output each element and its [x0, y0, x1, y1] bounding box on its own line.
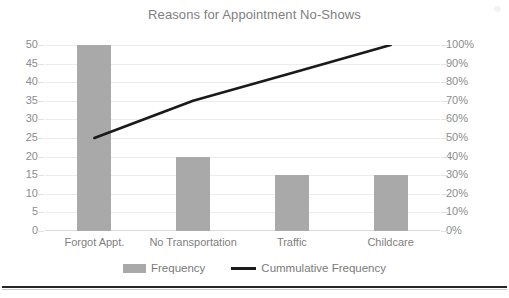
left-axis-tick-label: 15: [6, 169, 38, 180]
chart-title: Reasons for Appointment No-Shows: [0, 7, 509, 22]
left-axis-tick-label: 40: [6, 76, 38, 87]
right-axis-tick-label: 30%: [446, 169, 492, 180]
left-axis-tick-label: 25: [6, 132, 38, 143]
category-label: Traffic: [243, 236, 342, 249]
right-axis-tick-mark: [441, 64, 448, 65]
page-bottom-rule-shadow: [2, 289, 507, 290]
right-axis-tick-label: 50%: [446, 132, 492, 143]
scan-artifact: [494, 6, 501, 12]
bar-traffic[interactable]: [275, 175, 309, 231]
right-axis-tick-mark: [441, 175, 448, 176]
left-axis-tick-label: 30: [6, 113, 38, 124]
legend-bar-swatch-icon: [123, 264, 146, 273]
right-axis-tick-mark: [441, 194, 448, 195]
left-axis-tick-label: 35: [6, 95, 38, 106]
right-axis-tick-label: 40%: [446, 151, 492, 162]
left-axis-tick-mark: [37, 175, 44, 176]
legend-item-cumulative-frequency[interactable]: Cummulative Frequency: [231, 262, 386, 274]
left-axis-tick-mark: [37, 101, 44, 102]
left-axis-tick-mark: [37, 119, 44, 120]
left-axis-tick-label: 0: [6, 225, 38, 236]
right-axis-tick-mark: [441, 101, 448, 102]
category-label: Forgot Appt.: [45, 236, 144, 249]
bar-no-transportation[interactable]: [176, 157, 210, 231]
right-axis-tick-label: 20%: [446, 188, 492, 199]
left-axis-tick-label: 20: [6, 151, 38, 162]
left-axis-tick-mark: [37, 212, 44, 213]
bar-forgot-appt[interactable]: [77, 45, 111, 231]
pareto-chart: Reasons for Appointment No-Shows 5045403…: [0, 0, 509, 298]
left-axis-tick-label: 10: [6, 188, 38, 199]
category-label: Childcare: [341, 236, 440, 249]
left-axis-tick-mark: [37, 45, 44, 46]
right-axis-tick-mark: [441, 138, 448, 139]
right-axis-tick-mark: [441, 231, 448, 232]
legend-line-swatch-icon: [231, 267, 256, 270]
right-axis-tick-mark: [441, 119, 448, 120]
right-axis-tick-mark: [441, 45, 448, 46]
left-axis-tick-mark: [37, 194, 44, 195]
right-axis-tick-label: 60%: [446, 113, 492, 124]
legend-item-frequency[interactable]: Frequency: [123, 262, 205, 274]
left-axis-tick-mark: [37, 138, 44, 139]
right-axis-tick-label: 0%: [446, 225, 492, 236]
right-axis-tick-label: 80%: [446, 76, 492, 87]
legend-label-cumulative-frequency: Cummulative Frequency: [261, 262, 386, 274]
chart-legend: Frequency Cummulative Frequency: [0, 262, 509, 274]
left-axis-tick-label: 45: [6, 58, 38, 69]
legend-label-frequency: Frequency: [151, 262, 205, 274]
right-axis-tick-mark: [441, 157, 448, 158]
left-axis-tick-mark: [37, 231, 44, 232]
right-axis-tick-label: 10%: [446, 206, 492, 217]
bar-childcare[interactable]: [374, 175, 408, 231]
right-axis-tick-mark: [441, 212, 448, 213]
right-axis-tick-label: 90%: [446, 58, 492, 69]
page-bottom-rule: [2, 286, 507, 288]
left-axis-tick-label: 5: [6, 206, 38, 217]
left-axis-tick-mark: [37, 157, 44, 158]
left-axis-tick-mark: [37, 82, 44, 83]
category-label: No Transportation: [144, 236, 243, 249]
left-axis-tick-label: 50: [6, 39, 38, 50]
right-axis-tick-mark: [441, 82, 448, 83]
left-axis-tick-mark: [37, 64, 44, 65]
right-axis-tick-label: 100%: [446, 39, 492, 50]
right-axis-tick-label: 70%: [446, 95, 492, 106]
